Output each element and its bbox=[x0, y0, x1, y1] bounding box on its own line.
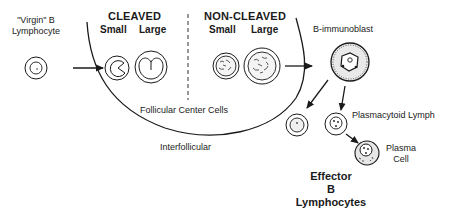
non-cleaved-heading: NON-CLEAVED bbox=[204, 10, 286, 22]
arrow-to-plasmacytoid bbox=[341, 86, 345, 110]
plasma-cell-label-line1: Plasma bbox=[386, 143, 416, 154]
cleaved-large-cell bbox=[135, 51, 167, 83]
plasma-cell bbox=[355, 141, 379, 165]
cleaved-small-cell bbox=[105, 56, 129, 80]
effector-small-lymphocyte-cell bbox=[286, 114, 308, 136]
virgin-b-lymphocyte-cell bbox=[25, 57, 47, 79]
plasma-cell-label: Plasma Cell bbox=[386, 143, 416, 165]
virgin-b-label-line2: Lymphocyte bbox=[6, 26, 66, 37]
cleaved-small-label: Small bbox=[100, 24, 127, 36]
non-cleaved-large-label: Large bbox=[251, 24, 278, 36]
arrow-to-small-lymphocyte bbox=[307, 80, 328, 108]
interfollicular-label: Interfollicular bbox=[160, 142, 211, 153]
arrow-to-plasma-cell bbox=[346, 134, 358, 143]
b-immunoblast-label: B-immunoblast bbox=[313, 24, 373, 35]
effector-line2: B bbox=[291, 183, 371, 196]
plasma-cell-label-line2: Cell bbox=[386, 154, 416, 165]
non-cleaved-large-cell bbox=[244, 48, 280, 84]
effector-line1: Effector bbox=[291, 170, 371, 183]
non-cleaved-small-cell bbox=[213, 53, 239, 79]
non-cleaved-small-label: Small bbox=[209, 24, 236, 36]
cleaved-large-label: Large bbox=[139, 24, 166, 36]
follicular-center-label: Follicular Center Cells bbox=[140, 105, 228, 116]
effector-line3: Lymphocytes bbox=[291, 196, 371, 209]
virgin-b-label: "Virgin" B Lymphocyte bbox=[6, 15, 66, 37]
plasmacytoid-lymphocyte-cell bbox=[325, 113, 347, 135]
virgin-b-label-line1: "Virgin" B bbox=[6, 15, 66, 26]
effector-b-lymphocytes-label: Effector B Lymphocytes bbox=[291, 170, 371, 209]
cleaved-heading: CLEAVED bbox=[108, 10, 161, 22]
b-immunoblast-cell bbox=[331, 43, 369, 81]
plasmacytoid-label: Plasmacytoid Lymph bbox=[352, 110, 435, 121]
